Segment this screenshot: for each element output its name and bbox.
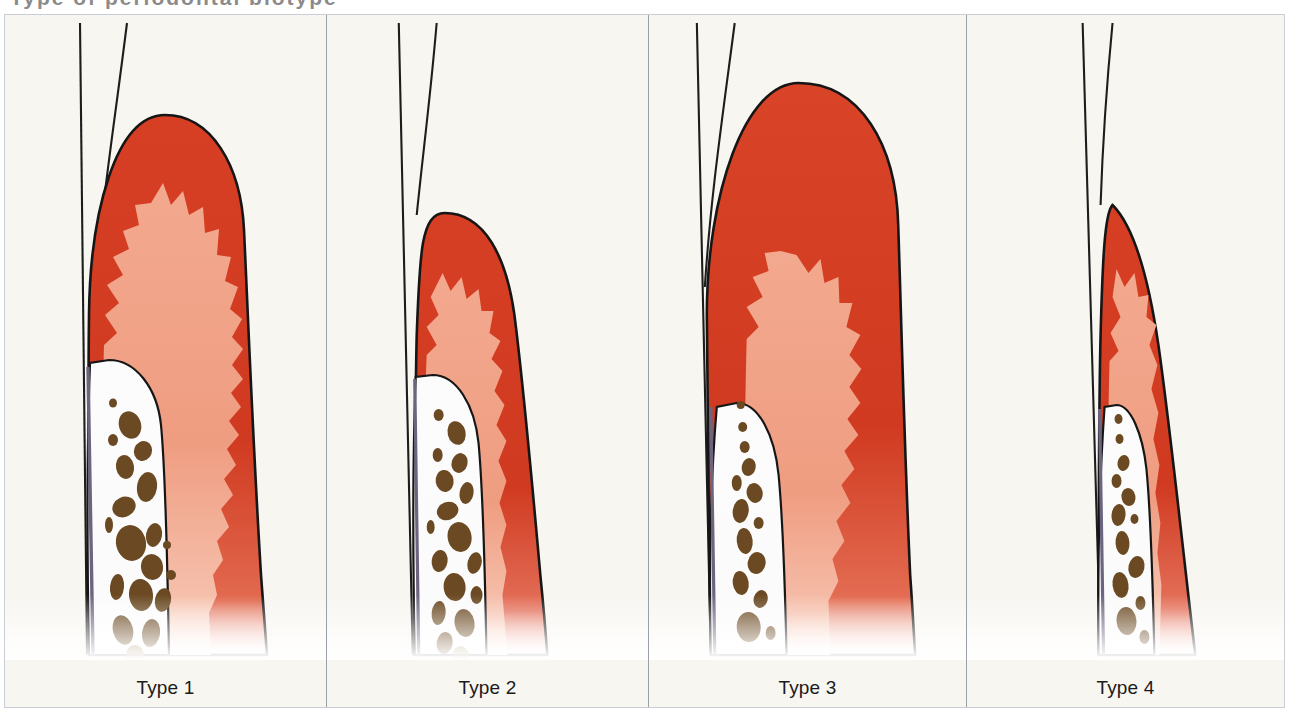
crown-contour-right xyxy=(1101,23,1113,205)
bottom-fade-type-3 xyxy=(649,515,966,660)
artwork-type-2 xyxy=(327,15,648,660)
panel-type-1[interactable]: Type 1 xyxy=(5,15,326,707)
artwork-type-3 xyxy=(649,15,966,660)
artwork-type-1 xyxy=(5,15,326,660)
clipped-header-strip: Type of periodontal biotype xyxy=(0,0,1293,13)
panel-row: Type 1 xyxy=(5,15,1284,707)
panel-type-2[interactable]: Type 2 xyxy=(326,15,648,707)
clipped-header-text: Type of periodontal biotype xyxy=(10,0,338,10)
panel-label-type-3: Type 3 xyxy=(649,677,966,699)
bottom-fade-type-1 xyxy=(5,515,326,660)
panel-label-type-2: Type 2 xyxy=(327,677,648,699)
bottom-fade-type-2 xyxy=(327,515,648,660)
panel-label-type-1: Type 1 xyxy=(5,677,326,699)
illustration-plate: Type 1 xyxy=(4,14,1285,708)
panel-label-type-4: Type 4 xyxy=(967,677,1284,699)
bottom-fade-type-4 xyxy=(967,515,1284,660)
panel-type-4[interactable]: Type 4 xyxy=(966,15,1284,707)
crown-contour-right xyxy=(417,23,437,215)
artwork-type-4 xyxy=(967,15,1284,660)
panel-type-3[interactable]: Type 3 xyxy=(648,15,966,707)
gingival-biotype-figure: Type of periodontal biotype xyxy=(0,0,1293,723)
